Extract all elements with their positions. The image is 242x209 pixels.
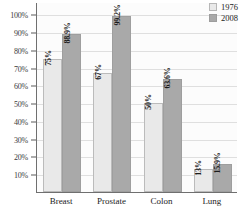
legend-item-2008[interactable]: 2008 — [209, 14, 238, 23]
bar-value-label: 75% — [44, 50, 53, 65]
bar-value-label: 15.9% — [213, 152, 222, 173]
bar-chart: 10%20%30%40%50%60%70%80%90%100% 75%88.9%… — [0, 0, 242, 209]
bar-colon-1976[interactable]: 50% — [144, 103, 163, 192]
x-axis-label-colon: Colon — [151, 196, 173, 206]
bar-prostate-2008[interactable]: 99.2% — [112, 16, 131, 192]
bar-breast-1976[interactable]: 75% — [43, 59, 62, 192]
y-axis-tick-label: 90% — [14, 29, 28, 38]
y-axis-tick-label: 70% — [14, 64, 28, 73]
x-axis-label-prostate: Prostate — [97, 196, 126, 206]
legend-swatch-icon — [209, 14, 217, 22]
bar-group: 13%15.9% — [194, 3, 232, 192]
bar-breast-2008[interactable]: 88.9% — [62, 34, 81, 192]
bar-lung-1976[interactable]: 13% — [194, 169, 213, 192]
y-axis: 10%20%30%40%50%60%70%80%90%100% — [0, 0, 36, 209]
bar-prostate-1976[interactable]: 67% — [93, 73, 112, 192]
legend-item-1976[interactable]: 1976 — [209, 3, 238, 12]
bar-value-label: 99.2% — [113, 4, 122, 25]
bar-value-label: 67% — [94, 64, 103, 79]
bar-value-label: 50% — [144, 95, 153, 110]
bar-group: 67%99.2% — [93, 3, 131, 192]
x-axis-label-lung: Lung — [202, 196, 221, 206]
y-axis-tick-label: 100% — [10, 11, 28, 20]
y-axis-tick-label: 50% — [14, 100, 28, 109]
y-axis-tick-label: 80% — [14, 46, 28, 55]
plot-area: 75%88.9%67%99.2%50%63.6%13%15.9% — [36, 3, 237, 193]
y-axis-tick-label: 20% — [14, 153, 28, 162]
bar-colon-2008[interactable]: 63.6% — [163, 79, 182, 192]
legend-label: 2008 — [221, 14, 238, 23]
bar-group: 75%88.9% — [43, 3, 81, 192]
y-axis-tick-label: 10% — [14, 171, 28, 180]
bar-value-label: 63.6% — [163, 68, 172, 89]
legend-swatch-icon — [209, 3, 217, 11]
bar-value-label: 13% — [194, 160, 203, 175]
bar-lung-2008[interactable]: 15.9% — [213, 164, 232, 192]
chart-legend: 19762008 — [209, 3, 238, 24]
y-axis-tick-label: 40% — [14, 117, 28, 126]
legend-label: 1976 — [221, 3, 238, 12]
y-axis-tick-label: 60% — [14, 82, 28, 91]
bar-group: 50%63.6% — [144, 3, 182, 192]
y-axis-tick-label: 30% — [14, 135, 28, 144]
x-axis-label-breast: Breast — [50, 196, 73, 206]
bar-value-label: 88.9% — [63, 23, 72, 44]
